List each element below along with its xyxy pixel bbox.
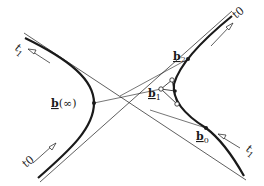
point-b1-open (159, 87, 163, 91)
arrow-icon-bottom-left (33, 143, 56, 163)
label-b-infinity: b(∞) (51, 97, 76, 110)
label-t0-top-right: t0 (230, 4, 247, 21)
label-t1-top-left: t1 (11, 41, 28, 59)
point-b0 (204, 126, 208, 130)
right-hyperbola-branch (174, 16, 244, 176)
point-lower-open (175, 102, 179, 106)
label-b2: b2 (173, 50, 186, 64)
arrow-icon-top-left (28, 49, 50, 63)
label-t0-bottom-left: t0 (20, 153, 37, 170)
label-t1-bottom-right: t1 (242, 142, 259, 160)
hyperbola-diagram: t1 t0 t0 t1 b(∞) b1 b2 b0 (0, 0, 264, 186)
point-upper-open (170, 78, 174, 82)
point-b-inf (92, 101, 96, 105)
line-b0-to-b1-ext (150, 110, 206, 128)
label-b0: b0 (196, 130, 209, 145)
point-b2 (186, 57, 190, 61)
point-vertex (173, 89, 177, 93)
